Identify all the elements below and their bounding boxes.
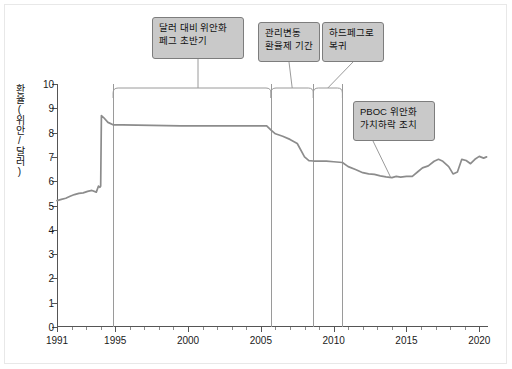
x-tick-minor [72,327,73,330]
x-tick-minor [290,327,291,330]
y-tick-label: 5 [48,200,54,211]
x-tick-label: 1995 [104,335,126,346]
x-tick-major [57,327,58,332]
x-tick-minor [392,327,393,330]
x-tick-minor [377,327,378,330]
x-tick-major [115,327,116,332]
x-tick-minor [363,327,364,330]
y-tick-label: 2 [48,273,54,284]
annotation-box-peg-early[interactable]: 달러 대비 위안화 페그 초반기 [152,17,244,59]
y-tick-label: 9 [48,103,54,114]
annotation-box-hard-peg-return[interactable]: 하드페그로 복귀 [322,22,384,62]
y-tick-label: 7 [48,151,54,162]
y-tick-label: 8 [48,127,54,138]
x-tick-minor [203,327,204,330]
x-tick-minor [450,327,451,330]
region-divider-line [113,84,114,327]
x-tick-label: 2015 [395,335,417,346]
x-tick-minor [421,327,422,330]
region-divider-line [271,84,272,327]
x-tick-label: 1991 [46,335,68,346]
x-tick-minor [348,327,349,330]
x-tick-minor [275,327,276,330]
y-tick-label: 0 [48,322,54,333]
y-tick-label: 10 [43,79,54,90]
x-tick-label: 2000 [177,335,199,346]
x-tick-label: 2005 [250,335,272,346]
y-tick-label: 3 [48,249,54,260]
chart-figure: 환율(위안/달러) 012345678910 19911995200020052… [0,0,512,369]
y-axis-line [57,84,58,327]
x-tick-major [334,327,335,332]
annotation-box-managed-float[interactable]: 관리변동 환율제 기간 [258,22,320,62]
x-tick-major [188,327,189,332]
x-tick-major [406,327,407,332]
x-tick-minor [246,327,247,330]
x-tick-minor [86,327,87,330]
y-tick-label: 4 [48,224,54,235]
x-tick-minor [232,327,233,330]
region-divider-line [313,84,314,327]
x-tick-minor [159,327,160,330]
x-tick-minor [101,327,102,330]
x-tick-minor [144,327,145,330]
x-tick-minor [173,327,174,330]
x-tick-minor [319,327,320,330]
x-tick-major [479,327,480,332]
x-tick-label: 2020 [468,335,490,346]
x-tick-minor [305,327,306,330]
y-tick-label: 1 [48,297,54,308]
x-tick-minor [130,327,131,330]
x-axis-line [57,326,488,327]
x-tick-minor [217,327,218,330]
x-tick-minor [465,327,466,330]
x-tick-major [261,327,262,332]
y-axis-title: 환율(위안/달러) [12,84,26,204]
annotation-box-pboc-devaluation[interactable]: PBOC 위안화 가치하락 조치 [353,101,435,141]
region-divider-line [342,84,343,327]
x-tick-minor [436,327,437,330]
x-tick-label: 2010 [323,335,345,346]
y-tick-label: 6 [48,176,54,187]
